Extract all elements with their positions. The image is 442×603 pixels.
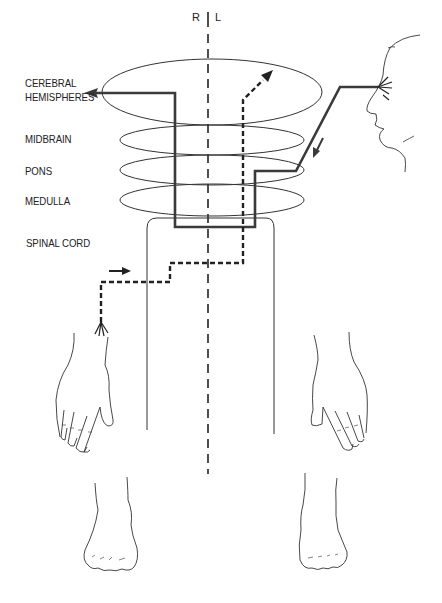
direction-arrow-icon (313, 147, 320, 158)
label-cerebral-hemispheres-2: HEMISPHERES (25, 90, 94, 104)
side-label-left: L (215, 11, 221, 23)
nerve-ending-wrist-icon (95, 322, 108, 336)
medulla-shape (120, 184, 304, 216)
label-spinal-cord: SPINAL CORD (26, 236, 90, 250)
label-midbrain: MIDBRAIN (25, 132, 72, 146)
nerve-ending-eye-icon (378, 77, 392, 100)
visual-pathway (95, 87, 378, 227)
label-medulla: MEDULLA (25, 194, 70, 208)
right-hand-illustration (56, 333, 113, 452)
side-label-right: R (192, 11, 200, 23)
label-cerebral-hemispheres-1: CEREBRAL (25, 76, 76, 90)
midbrain-shape (120, 125, 304, 155)
somatosensory-pathway (101, 80, 263, 322)
label-pons: PONS (25, 164, 52, 178)
face-profile (367, 35, 420, 172)
right-foot-illustration (84, 477, 138, 571)
left-foot-illustration (299, 473, 347, 570)
face-brow (388, 47, 395, 48)
direction-arrow-right-icon (122, 267, 131, 275)
spinal-cord-shape (147, 218, 274, 434)
left-hand-illustration (311, 332, 367, 450)
face-ear-line (403, 136, 414, 142)
